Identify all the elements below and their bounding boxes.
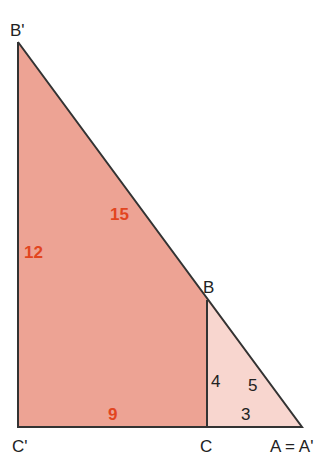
vertex-label-c-prime: C' — [12, 437, 28, 456]
vertex-label-b-prime: B' — [10, 21, 25, 40]
length-bc: 4 — [211, 372, 220, 391]
length-c-prime-a: 9 — [108, 405, 117, 424]
length-b-prime-c-prime: 12 — [24, 243, 43, 262]
vertex-label-a: A = A' — [270, 437, 313, 456]
similar-triangles-diagram: B' C' C B A = A' 12 15 9 4 5 3 — [0, 0, 334, 466]
length-ca: 3 — [241, 405, 250, 424]
length-b-prime-a: 15 — [110, 205, 129, 224]
length-ba: 5 — [248, 376, 257, 395]
vertex-label-c: C — [200, 437, 212, 456]
vertex-label-b: B — [203, 278, 214, 297]
